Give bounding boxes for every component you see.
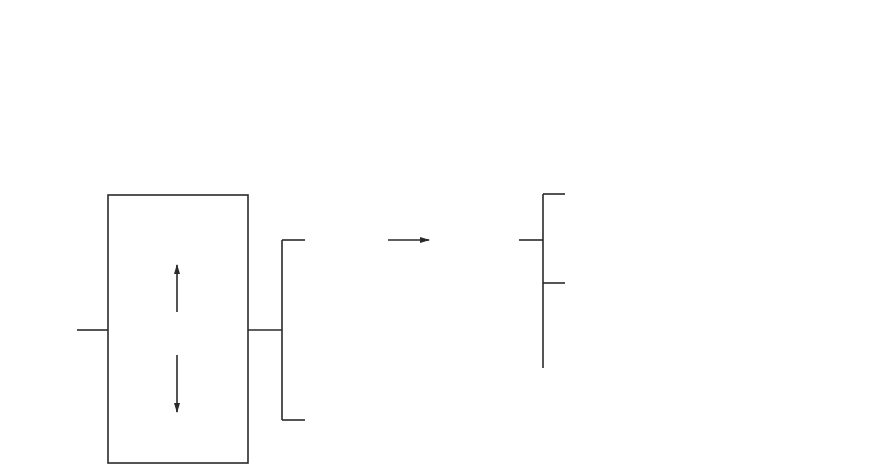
individualism-box [108, 195, 248, 463]
diagram-connectors [0, 0, 892, 476]
